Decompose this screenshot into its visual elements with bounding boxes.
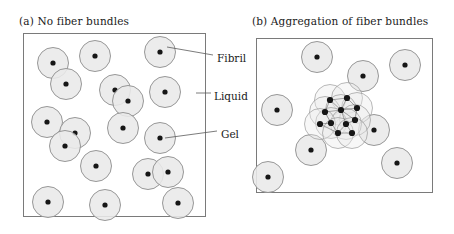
- fibril-dot: [335, 130, 341, 136]
- fibril-dot: [352, 117, 358, 123]
- fibril-dot: [44, 119, 49, 124]
- diagram-canvas: [0, 0, 454, 234]
- fibril-dot: [92, 53, 97, 58]
- fibril-dot: [102, 202, 107, 207]
- particle: [51, 69, 82, 100]
- fibril-dot: [394, 160, 399, 165]
- fibril-dot: [162, 89, 167, 94]
- fibril-dot: [120, 125, 125, 130]
- fibril-dot: [62, 143, 67, 148]
- fibril-dot: [165, 169, 170, 174]
- fibril-dot: [317, 121, 323, 127]
- fibril-dot: [360, 73, 365, 78]
- fibril-dot: [402, 62, 407, 67]
- cluster-discs: [305, 83, 373, 149]
- particle: [50, 131, 81, 162]
- particle: [145, 37, 176, 68]
- fibril-dot: [308, 147, 313, 152]
- fibril-dot: [157, 135, 162, 140]
- particle: [145, 123, 176, 154]
- figure-root: (a) No fiber bundles (b) Aggregation of …: [0, 0, 454, 234]
- fibril-dot: [45, 199, 50, 204]
- particle: [262, 95, 293, 126]
- fibril-dot: [145, 171, 150, 176]
- fibril-dot: [125, 98, 130, 103]
- particle: [382, 148, 413, 179]
- particle: [253, 162, 284, 193]
- particle: [108, 113, 139, 144]
- fibril-dot: [314, 54, 319, 59]
- fibril-dot: [349, 130, 355, 136]
- particle: [302, 42, 333, 73]
- fibril-dot: [343, 121, 349, 127]
- particle: [90, 190, 121, 221]
- particle: [390, 50, 421, 81]
- fibril-dot: [344, 95, 350, 101]
- fibril-dot: [63, 81, 68, 86]
- fibril-dot: [322, 109, 328, 115]
- fibril-dot: [93, 163, 98, 168]
- fibril-dot: [371, 127, 376, 132]
- panel-a-particle-group: [32, 37, 194, 221]
- fibril-dot: [354, 105, 360, 111]
- fibril-dot: [328, 120, 334, 126]
- particle: [163, 188, 194, 219]
- particle: [33, 187, 64, 218]
- particle: [150, 77, 181, 108]
- fibril-dot: [157, 49, 162, 54]
- fiber-bundle-aggregate: [305, 83, 373, 149]
- fibril-dot: [265, 174, 270, 179]
- fibril-dot: [50, 60, 55, 65]
- particle: [113, 86, 144, 117]
- fibril-dot: [338, 107, 344, 113]
- fibril-dot: [274, 107, 279, 112]
- particle: [81, 151, 112, 182]
- particle: [153, 157, 184, 188]
- fibril-dot: [175, 200, 180, 205]
- particle: [80, 41, 111, 72]
- fibril-dot: [327, 97, 333, 103]
